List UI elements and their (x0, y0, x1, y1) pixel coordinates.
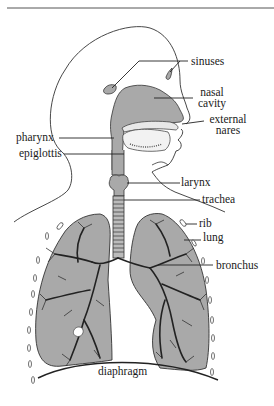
label-bronchus: bronchus (216, 260, 258, 271)
lung-lesion (73, 327, 83, 337)
label-external-nares: external nares (205, 114, 251, 136)
lung-left-anatomical (130, 214, 209, 371)
label-pharynx: pharynx (16, 132, 54, 143)
larynx-shape (109, 175, 128, 196)
label-epiglottis: epiglottis (19, 148, 62, 159)
tongue (123, 129, 170, 151)
label-rib: rib (199, 218, 212, 229)
label-lung: lung (203, 232, 223, 243)
label-diaphragm: diaphragm (98, 366, 147, 377)
label-nasal-cavity: nasal cavity (195, 87, 229, 109)
label-nares: nares (205, 125, 251, 136)
leader-external-nares (182, 121, 204, 124)
label-sinuses: sinuses (191, 56, 224, 67)
label-cavity: cavity (195, 98, 229, 109)
trachea-tube (113, 196, 124, 258)
label-larynx: larynx (181, 177, 210, 188)
leader-sinuses-a (112, 61, 139, 88)
neck-line (152, 162, 168, 165)
label-trachea: trachea (202, 194, 235, 205)
sinus-maxillary (166, 68, 172, 79)
